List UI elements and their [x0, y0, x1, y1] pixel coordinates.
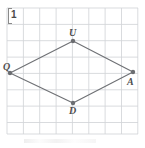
vertex-label-q: Q [3, 62, 10, 72]
geometry-figure: 1 QUAD [0, 0, 145, 148]
vertex-label-d: D [69, 106, 76, 116]
bottom-scan-artifact [24, 139, 96, 143]
vertex-label-a: A [127, 77, 134, 87]
rhombus-quad-outline [10, 41, 133, 103]
vertex-label-u: U [69, 28, 76, 38]
exercise-number-label: 1 [11, 9, 17, 21]
vertex-point-a [131, 70, 135, 74]
rhombus-shape-layer [8, 39, 135, 105]
vertex-point-u [71, 39, 75, 43]
figure-canvas [0, 0, 145, 148]
vertex-dots-layer [8, 39, 135, 105]
